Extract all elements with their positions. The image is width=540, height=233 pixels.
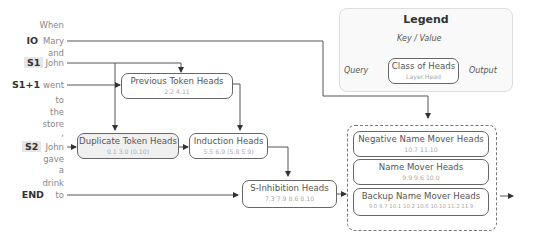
legend-output: Output [469,66,497,75]
box-layers: 5.5 6.9 (5.8 5.9) [190,147,267,156]
legend-class-title: Class of Heads [389,61,458,72]
legend-query: Query [344,66,368,75]
box-title: Duplicate Token Heads [78,136,178,147]
token-went: went [36,80,64,90]
name-mover-heads-box: Name Mover Heads 9.9 9.6 10.0 [353,159,489,185]
previous-token-heads-box: Previous Token Heads 2.2 4.11 [121,73,233,99]
token-comma: , [20,128,64,138]
box-title: Backup Name Mover Heads [354,191,488,202]
token-to: to [20,95,64,105]
token-when: When [20,20,64,30]
token-to-end: to [36,190,64,200]
legend-title: Legend [340,13,512,26]
token-john-s2: John [36,142,64,152]
induction-heads-box: Induction Heads 5.5 6.9 (5.8 5.9) [189,133,268,159]
token-mary: Mary [36,36,64,46]
s-inhibition-heads-box: S-Inhibition Heads 7.3 7.9 8.6 8.10 [242,180,337,208]
box-title: Name Mover Heads [354,162,488,173]
legend-key-value: Key / Value [397,34,441,43]
legend-class-sub: Layer.Head [389,72,458,81]
box-layers: 2.2 4.11 [122,87,232,96]
token-john-s1: John [36,58,64,68]
token-the: the [20,107,64,117]
negative-name-mover-heads-box: Negative Name Mover Heads 10.7 11.10 [353,131,489,157]
box-layers: 0.1 3.0 (0.10) [78,147,178,156]
legend-class-of-heads-box: Class of Heads Layer.Head [388,58,459,84]
token-a: a [20,165,64,175]
box-layers: 10.7 11.10 [354,145,488,154]
token-drink: drink [20,178,64,188]
box-layers: 9.9 9.6 10.0 [354,173,488,182]
box-layers: 9.0 9.7 10.1 10.2 10.6 10.10 11.2 11.9 [354,202,488,211]
duplicate-token-heads-box: Duplicate Token Heads 0.1 3.0 (0.10) [77,133,179,159]
backup-name-mover-heads-box: Backup Name Mover Heads 9.0 9.7 10.1 10.… [353,188,489,216]
box-title: Negative Name Mover Heads [354,134,488,145]
box-title: Induction Heads [190,136,267,147]
box-title: Previous Token Heads [122,76,232,87]
box-title: S-Inhibition Heads [243,183,336,194]
token-gave: gave [20,154,64,164]
box-layers: 7.3 7.9 8.6 8.10 [243,194,336,203]
